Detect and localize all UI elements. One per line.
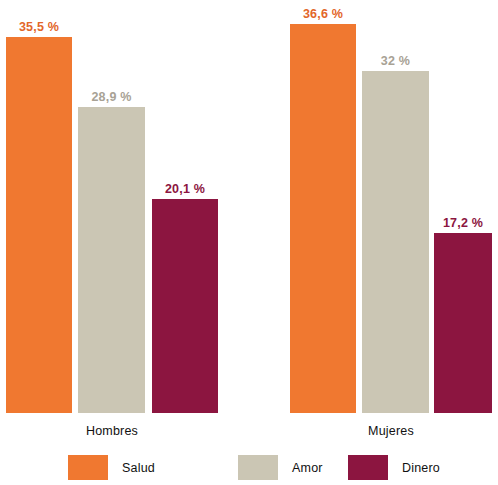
bar: 35,5 % bbox=[6, 37, 72, 413]
bar: 32 % bbox=[362, 71, 429, 413]
bar-rect bbox=[434, 233, 492, 413]
chart-legend: SaludAmorDinero bbox=[0, 455, 498, 485]
bar-chart: 35,5 %28,9 %20,1 %36,6 %32 %17,2 % Hombr… bbox=[0, 0, 498, 485]
bar-value-label: 28,9 % bbox=[91, 91, 131, 104]
legend-label: Dinero bbox=[402, 461, 440, 475]
bar-value-label: 36,6 % bbox=[303, 8, 343, 21]
legend-swatch-icon bbox=[348, 455, 388, 480]
legend-swatch-icon bbox=[68, 455, 108, 480]
bar: 36,6 % bbox=[290, 24, 356, 413]
bar-rect bbox=[6, 37, 72, 413]
group-axis-label: Hombres bbox=[86, 424, 138, 438]
bar: 17,2 % bbox=[434, 233, 492, 413]
bar: 28,9 % bbox=[78, 107, 145, 413]
bar-rect bbox=[362, 71, 429, 413]
bar: 20,1 % bbox=[152, 199, 218, 413]
bar-value-label: 32 % bbox=[381, 55, 410, 68]
legend-item: Dinero bbox=[348, 455, 440, 480]
bar-rect bbox=[152, 199, 218, 413]
bar-value-label: 20,1 % bbox=[165, 183, 205, 196]
group-axis-label: Mujeres bbox=[368, 424, 414, 438]
legend-label: Amor bbox=[292, 461, 323, 475]
bar-value-label: 35,5 % bbox=[19, 21, 59, 34]
legend-item: Salud bbox=[68, 455, 155, 480]
legend-swatch-icon bbox=[238, 455, 278, 480]
bar-value-label: 17,2 % bbox=[443, 217, 483, 230]
legend-item: Amor bbox=[238, 455, 323, 480]
legend-label: Salud bbox=[122, 461, 155, 475]
bar-rect bbox=[78, 107, 145, 413]
bar-rect bbox=[290, 24, 356, 413]
